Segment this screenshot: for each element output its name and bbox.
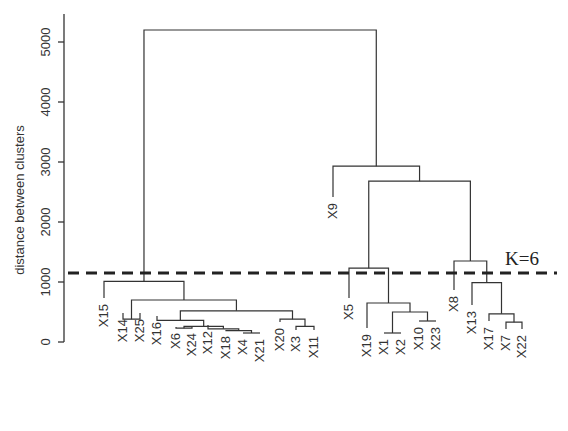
leaf-label: X2 (393, 339, 408, 355)
leaf-label: X25 (132, 319, 147, 342)
y-tick-label: 1000 (38, 268, 53, 297)
leaf-label: X15 (96, 304, 111, 327)
leaf-label: X11 (306, 336, 321, 358)
y-axis-label: distance between clusters (12, 125, 27, 275)
y-tick-label: 0 (38, 338, 53, 345)
y-tick-label: 3000 (38, 148, 53, 177)
leaf-labels: X15X14X25X16X6X24X12X18X4X21X20X3X11X9X5… (96, 203, 529, 362)
leaf-label: X3 (288, 336, 303, 352)
merge-link (472, 283, 502, 314)
dendrogram-chart: 010002000300040005000 distance between c… (0, 0, 568, 431)
merge-link (180, 311, 292, 321)
leaf-label: X13 (464, 311, 479, 334)
leaf-label: X20 (272, 328, 287, 351)
leaf-label: X23 (428, 327, 443, 350)
leaf-label: X18 (218, 336, 233, 359)
leaf-label: X8 (446, 296, 461, 312)
leaf-label: X9 (325, 203, 340, 219)
leaf-label: X10 (411, 327, 426, 350)
leaf-label: X14 (115, 319, 130, 342)
leaf-label: X22 (514, 335, 529, 358)
y-tick-label: 4000 (38, 88, 53, 117)
merge-link (296, 326, 314, 330)
merge-link (144, 30, 376, 281)
merge-link (132, 300, 237, 319)
leaf-label: X1 (376, 339, 391, 355)
merge-link (280, 319, 305, 326)
merge-link (367, 303, 410, 328)
merge-link (489, 314, 514, 322)
leaf-label: X21 (252, 339, 267, 362)
leaf-label: X24 (184, 333, 199, 356)
merge-link (506, 322, 522, 329)
leaf-label: X17 (481, 327, 496, 350)
dendrogram-tree (104, 30, 522, 333)
leaf-label: X19 (359, 334, 374, 357)
y-tick-label: 5000 (38, 28, 53, 57)
y-axis: 010002000300040005000 (38, 14, 64, 346)
cut-label: K=6 (505, 248, 539, 269)
leaf-label: X16 (149, 322, 164, 345)
leaf-label: X7 (498, 335, 513, 351)
leaf-label: X5 (341, 304, 356, 320)
merge-link (454, 261, 487, 290)
merge-link (104, 281, 184, 300)
y-tick-label: 2000 (38, 208, 53, 237)
leaf-label: X12 (200, 331, 215, 354)
merge-link (369, 181, 471, 268)
leaf-label: X4 (235, 339, 250, 355)
leaf-label: X6 (168, 333, 183, 349)
